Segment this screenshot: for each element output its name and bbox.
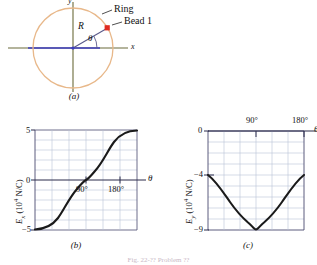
panel-a-caption: (a)	[44, 91, 104, 101]
panel-b-ytick-label-top: 5	[26, 125, 30, 135]
panel-c-caption: (c)	[228, 240, 268, 250]
panel-b-yaxis-exp: 4	[12, 199, 20, 203]
figure-bottom-caption: Fig. 22-?? Problem ??	[0, 256, 317, 265]
panel-b-xaxis-title: θ	[148, 173, 152, 183]
panel-c-xtick-label-180: 180°	[292, 115, 308, 125]
ring-label: Ring	[114, 3, 133, 14]
bead-1-label: Bead 1	[124, 15, 152, 26]
origin-dot	[71, 46, 74, 49]
ring-leader-line	[102, 10, 112, 14]
panel-c-yaxis-exp: 4	[182, 199, 190, 203]
panel-c-yaxis-units-tail: N/C)	[184, 180, 194, 199]
theta-arc	[94, 36, 97, 48]
panel-a-x-axis-label: x	[131, 42, 135, 51]
panel-c-yaxis-sub: y	[189, 216, 197, 219]
panel-c-yaxis-sym: E	[184, 219, 194, 224]
panel-b-xtick-label-180: 180°	[108, 184, 124, 194]
panel-c-ytick-label-minus4: −4	[194, 169, 203, 179]
panel-c-chart: 0 −4 −9 90° 180° θ Ey (104 N/C)	[168, 122, 317, 242]
figure-root: y x R θ Ring Bead 1 (a)	[0, 0, 317, 265]
panel-c-ytick-label-0: 0	[198, 125, 202, 135]
panel-b-yaxis-units-head: (10	[14, 202, 24, 213]
panel-b-yaxis-sub: x	[19, 216, 27, 219]
panel-c-grid	[208, 131, 304, 230]
bead-1-marker	[105, 25, 110, 30]
panel-c-ytick-label-minus9: −9	[194, 224, 203, 234]
panel-b-yaxis-title: Ex (104 N/C)	[12, 180, 27, 225]
bead-leader-line	[112, 22, 122, 25]
panel-c-yaxis-units-head: (10	[184, 202, 194, 213]
panel-a-svg	[0, 0, 180, 100]
panel-b-ytick-label-zero: 0	[26, 175, 30, 185]
panel-a-y-axis-label: y	[68, 0, 72, 5]
panel-b-yaxis-sym: E	[14, 219, 24, 224]
panel-c-xtick-label-90: 90°	[246, 115, 258, 125]
panel-b-xtick-label-90: 90°	[76, 184, 88, 194]
panel-b-chart: 5 0 −5 90° 180° θ Ex (104 N/C)	[0, 122, 160, 242]
panel-b-yaxis-units-tail: N/C)	[14, 180, 24, 199]
radius-label: R	[78, 21, 84, 31]
panel-a-diagram: y x R θ Ring Bead 1	[0, 0, 180, 100]
panel-b-ytick-label-bottom: −5	[22, 224, 31, 234]
panel-c-yaxis-title: Ey (104 N/C)	[182, 180, 197, 225]
panel-b-caption: (b)	[56, 240, 96, 250]
panel-c-xaxis-title: θ	[314, 124, 317, 134]
theta-label: θ	[88, 33, 92, 43]
